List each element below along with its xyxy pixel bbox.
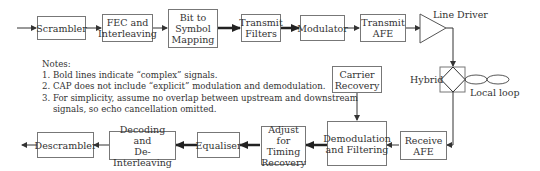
equaliser-block: Equaliser: [197, 132, 240, 158]
timing-recovery-block: Adjust for Timing Recovery: [261, 126, 306, 165]
note-2: 2. CAP does not include “explicit” modul…: [42, 81, 358, 92]
note-3: 3. For simplicity, assume no overlap bet…: [42, 93, 358, 104]
fec-interleaving-block: FEC and Interleaving: [102, 14, 153, 42]
line-driver-label: Line Driver: [433, 9, 488, 20]
note-3-cont: signals, so echo cancellation omitted.: [42, 104, 358, 115]
demodulation-filtering-block: Demodulation and Filtering: [327, 121, 387, 166]
descrambler-block: Descrambler: [37, 132, 94, 158]
modulator-block: Modulator: [300, 15, 345, 41]
bit-to-symbol-mapping-block: Bit to Symbol Mapping: [168, 9, 218, 48]
scrambler-block: Scrambler: [37, 16, 86, 40]
receive-afe-block: Receive AFE: [400, 131, 447, 160]
local-loop-label: Local loop: [470, 87, 520, 98]
transmit-afe-block: Transmit AFE: [360, 14, 406, 42]
notes-title: Notes:: [42, 59, 358, 70]
transmit-filters-block: Transmit Filters: [241, 14, 281, 42]
hybrid-label: Hybrid: [410, 74, 443, 85]
decoding-deinterleaving-block: Decoding and De-Interleaving: [109, 131, 176, 160]
note-1: 1. Bold lines indicate “complex” signals…: [42, 70, 358, 81]
notes-block: Notes: 1. Bold lines indicate “complex” …: [42, 59, 358, 115]
